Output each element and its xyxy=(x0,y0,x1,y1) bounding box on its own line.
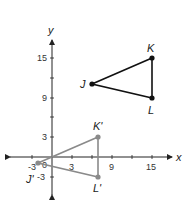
point-j-prime xyxy=(35,160,40,165)
x-tick-label: 9 xyxy=(109,162,114,172)
x-tick-label: 15 xyxy=(146,162,156,172)
point-l xyxy=(149,95,154,100)
y-tick-label: 15 xyxy=(37,53,47,63)
point-j xyxy=(89,81,94,86)
coordinate-plane: x y -3 3 9 15 0 15 9 3 -3 J K L J' K' L' xyxy=(0,0,194,207)
y-tick-label: 3 xyxy=(42,132,47,142)
point-k xyxy=(149,55,154,60)
x-tick-label: -3 xyxy=(28,162,36,172)
label-k-prime: K' xyxy=(93,120,103,132)
label-l-prime: L' xyxy=(93,182,102,194)
y-tick-label: -3 xyxy=(37,172,45,182)
y-axis-label: y xyxy=(47,24,55,36)
label-j-prime: J' xyxy=(25,173,35,185)
point-l-prime xyxy=(95,174,100,179)
point-k-prime xyxy=(95,134,100,139)
label-l: L xyxy=(148,104,154,116)
label-k: K xyxy=(147,42,155,54)
triangle-jkl xyxy=(92,58,152,98)
y-tick-label: 9 xyxy=(42,93,47,103)
x-axis-label: x xyxy=(175,151,182,163)
label-j: J xyxy=(79,78,86,90)
